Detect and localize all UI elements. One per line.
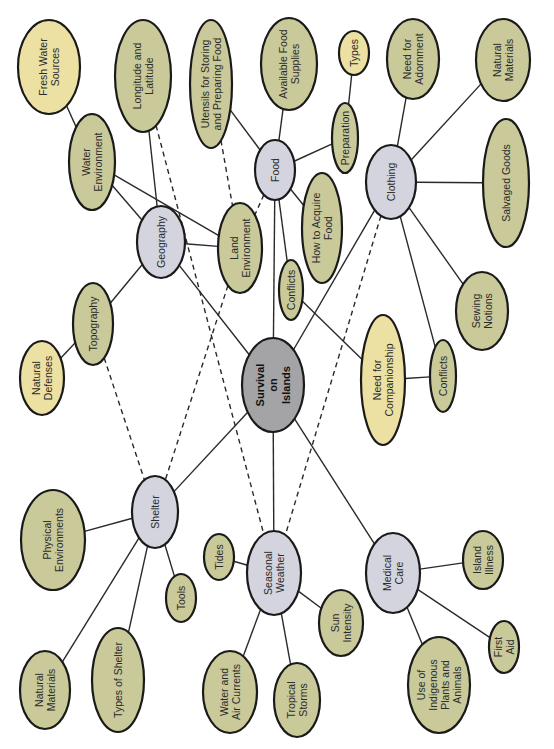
edge-survival-to-shelter	[174, 412, 248, 491]
edge-clothing-to-conflicts-clothing	[400, 216, 435, 347]
node-natural-defenses: NaturalDefenses	[20, 341, 64, 415]
edge-geography-to-topography	[110, 265, 142, 304]
edge-food-to-preparation	[294, 144, 332, 161]
node-geography: Geography	[137, 206, 185, 278]
node-types-of-shelter: Types of Shelter	[92, 628, 144, 732]
node-label: FirstAid	[492, 637, 516, 657]
edge-seasonal-weather-to-sun-intensity	[298, 591, 321, 608]
node-label: Shelter	[149, 495, 161, 529]
node-sewing-notions: SewingNotions	[456, 272, 508, 350]
node-label: Types	[348, 39, 360, 67]
node-label: SewingNotions	[470, 293, 494, 329]
node-conflicts-clothing: Conflicts	[430, 340, 456, 412]
edge-food-to-land-environment	[255, 195, 264, 215]
node-label: Conflicts	[437, 356, 449, 396]
edge-clothing-to-need-for-adornment	[397, 98, 406, 147]
node-food: Food	[255, 140, 295, 200]
node-preparation: Preparation	[332, 103, 358, 173]
concept-map: SurvivalonIslandsGeographyFoodClothingSh…	[0, 0, 554, 749]
edge-clothing-to-sewing-notions	[409, 208, 463, 285]
node-medical-care: MedicalCare	[366, 533, 420, 613]
node-first-aid: FirstAid	[489, 621, 519, 673]
node-land-environment: LandEnvironment	[218, 203, 262, 293]
node-fresh-water-sources: Fresh WaterSources	[18, 20, 80, 114]
edge-seasonal-weather-to-tropical-storms	[281, 613, 290, 664]
node-survival: SurvivalonIslands	[242, 338, 304, 432]
edge-conflicts-food-to-need-for-companionship	[302, 301, 362, 360]
node-sun-intensity: SunIntensity	[319, 590, 363, 656]
edge-longitude-latitude-to-seasonal-weather	[156, 126, 264, 535]
node-water-environment: WaterEnvironment	[69, 114, 115, 210]
edge-shelter-to-types-of-shelter	[128, 546, 147, 632]
edge-topography-to-shelter	[104, 358, 144, 480]
edge-utensils-to-land-environment	[221, 140, 233, 205]
edge-survival-to-medical-care	[295, 419, 375, 544]
node-label: Preparation	[339, 111, 351, 165]
node-label: Conflicts	[285, 270, 297, 310]
edge-geography-to-land-environment	[185, 244, 218, 247]
edge-water-environment-to-fresh-water-sources	[67, 106, 77, 127]
node-topography: Topography	[73, 283, 113, 365]
node-label: Geography	[155, 215, 167, 268]
edge-food-to-conflicts-food	[279, 199, 287, 261]
node-label: Need forAdornment	[401, 33, 425, 84]
node-label: Types of Shelter	[112, 642, 124, 718]
node-seasonal-weather: SeasonalWeather	[247, 531, 301, 615]
node-label: Tides	[213, 544, 225, 569]
edge-food-to-available-food-supplies	[279, 109, 283, 141]
node-label: NaturalMaterials	[33, 669, 57, 712]
node-shelter: Shelter	[132, 476, 178, 548]
edge-survival-to-food	[273, 200, 274, 338]
node-label: NaturalMaterials	[491, 39, 515, 82]
edge-food-to-utensils	[230, 110, 260, 150]
node-salvaged-goods: Salvaged Goods	[483, 119, 529, 247]
node-layer: SurvivalonIslandsGeographyFoodClothingSh…	[18, 18, 530, 737]
node-clothing: Clothing	[366, 145, 416, 219]
node-label: Tools	[175, 586, 187, 611]
node-label: Topography	[87, 296, 99, 352]
node-label: Utensils for Storingand Preparing Food	[199, 37, 223, 130]
edge-land-environment-to-shelter	[165, 286, 228, 480]
node-available-food-supplies: Available FoodSupplies	[261, 18, 317, 110]
node-indigenous-plants: Use ofIndigenousPlants andAnimals	[408, 637, 470, 733]
node-physical-environments: PhysicalEnvironments	[21, 490, 85, 590]
edge-topography-to-natural-defenses	[61, 343, 76, 358]
edge-geography-to-water-environment	[112, 185, 142, 220]
node-label: SeasonalWeather	[262, 551, 286, 595]
node-label: Clothing	[385, 163, 397, 202]
node-need-for-companionship: Need forCompanionship	[361, 315, 405, 445]
node-label: Water andAir Currents	[218, 664, 242, 720]
node-natural-materials-shelter: NaturalMaterials	[20, 651, 70, 729]
edge-shelter-to-physical-environments	[85, 518, 133, 531]
edge-medical-care-to-first-aid	[418, 589, 490, 637]
node-how-to-acquire-food: How to AcquireFood	[302, 173, 342, 283]
node-label: Food	[269, 158, 281, 182]
node-conflicts-food: Conflicts	[279, 260, 303, 320]
edge-seasonal-weather-to-tides	[234, 561, 248, 565]
node-label: Salvaged Goods	[500, 144, 512, 222]
node-types: Types	[339, 31, 369, 75]
edge-preparation-to-types	[349, 75, 352, 105]
edge-need-for-companionship-to-conflicts-clothing	[405, 377, 430, 379]
edge-shelter-to-tools	[165, 545, 175, 577]
node-need-for-adornment: Need forAdornment	[387, 19, 439, 99]
edge-medical-care-to-indigenous-plants	[407, 607, 422, 644]
edge-medical-care-to-island-illness	[420, 563, 463, 569]
node-island-illness: IslandIllness	[463, 531, 503, 589]
edge-clothing-to-salvaged-goods	[416, 182, 483, 183]
node-label: TropicalStorms	[285, 682, 309, 719]
edge-seasonal-weather-to-water-air-currents	[243, 609, 260, 656]
edge-food-to-how-to-acquire-food	[290, 189, 303, 205]
node-water-air-currents: Water andAir Currents	[203, 651, 257, 733]
node-tools: Tools	[166, 574, 196, 622]
node-label: NaturalDefenses	[30, 356, 54, 400]
node-label: IslandIllness	[471, 545, 495, 575]
node-tropical-storms: TropicalStorms	[274, 663, 320, 737]
node-natural-materials-clothing: NaturalMaterials	[476, 19, 530, 101]
edge-survival-to-seasonal-weather	[273, 432, 274, 531]
node-tides: Tides	[204, 534, 234, 580]
node-utensils: Utensils for Storingand Preparing Food	[190, 20, 232, 148]
node-longitude-latitude: Longitude andLatitude	[115, 20, 171, 132]
